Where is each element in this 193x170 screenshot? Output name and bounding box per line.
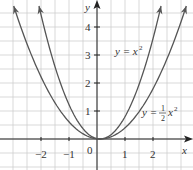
curve-x-squared	[39, 6, 161, 139]
origin-label: 0	[87, 144, 93, 156]
fraction-numerator: 1	[161, 104, 165, 113]
fraction-denominator: 2	[161, 114, 165, 123]
x-tick-label: −1	[63, 148, 75, 160]
parabola-chart: x y 0 −2 −1 1 2 1 2 3 4 y = x 2 y = 1 2 …	[0, 0, 193, 170]
annotation-half-x-squared: y = 1 2 x 2	[141, 104, 178, 123]
annotation-exponent: 2	[174, 105, 178, 113]
y-tick-label: 1	[85, 105, 91, 117]
annotation-text: y = x	[114, 45, 138, 57]
y-tick-label: 4	[85, 21, 91, 33]
y-tick-label: 3	[85, 49, 91, 61]
x-tick-label: 1	[122, 148, 128, 160]
annotation-variable: x	[167, 106, 173, 118]
y-tick-label: 2	[85, 77, 91, 89]
y-axis-label: y	[84, 1, 90, 13]
x-tick-label: −2	[35, 148, 47, 160]
x-axis-label: x	[181, 144, 187, 156]
x-tick-label: 2	[150, 148, 156, 160]
annotation-exponent: 2	[139, 44, 143, 52]
annotation-text: y =	[141, 106, 157, 118]
